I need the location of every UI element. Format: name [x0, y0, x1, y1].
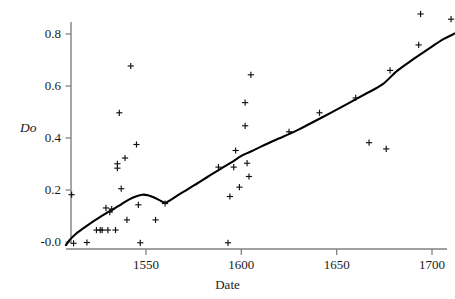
- data-point: [248, 72, 254, 78]
- data-point: [118, 186, 124, 192]
- data-point: [416, 42, 422, 48]
- x-axis-ticks: [146, 249, 432, 255]
- data-point: [128, 63, 134, 69]
- data-point: [69, 192, 75, 198]
- data-point: [383, 146, 389, 152]
- x-tick-label: 1550: [116, 258, 176, 271]
- data-point: [417, 11, 423, 17]
- x-tick-label: 1600: [211, 258, 271, 271]
- trend-line: [66, 33, 455, 245]
- data-point-markers: [69, 11, 455, 247]
- data-point: [233, 147, 239, 153]
- y-tick-label: -0.0: [40, 235, 61, 248]
- plot-area: [0, 0, 455, 299]
- data-point: [84, 239, 90, 245]
- data-point: [242, 100, 248, 106]
- data-point: [103, 205, 109, 211]
- data-point: [114, 165, 120, 171]
- data-point: [135, 202, 141, 208]
- y-axis-title: Do: [20, 121, 37, 135]
- x-tick-label: 1700: [402, 258, 455, 271]
- data-point: [105, 227, 111, 233]
- data-point: [122, 155, 128, 161]
- x-tick-label: 1650: [307, 258, 367, 271]
- data-point: [242, 123, 248, 129]
- y-axis-ticks: [66, 34, 72, 242]
- x-axis-title: Date: [0, 278, 455, 291]
- data-point: [316, 110, 322, 116]
- data-point: [227, 193, 233, 199]
- data-point: [231, 164, 237, 170]
- axis-lines: [66, 22, 447, 249]
- data-point: [133, 141, 139, 147]
- data-point: [244, 160, 250, 166]
- data-point: [116, 110, 122, 116]
- data-point: [246, 173, 252, 179]
- y-tick-label: 0.6: [45, 79, 61, 92]
- data-point: [387, 67, 393, 73]
- data-point: [137, 240, 143, 246]
- scatter-chart: Do Date -0.00.20.40.60.81550160016501700: [0, 0, 455, 299]
- y-tick-label: 0.4: [45, 131, 61, 144]
- data-point: [236, 184, 242, 190]
- data-point: [225, 240, 231, 246]
- data-point: [124, 217, 130, 223]
- data-point: [112, 227, 118, 233]
- data-point: [448, 16, 454, 22]
- data-point: [366, 140, 372, 146]
- data-point: [152, 217, 158, 223]
- y-tick-label: 0.2: [45, 183, 61, 196]
- y-tick-label: 0.8: [45, 27, 61, 40]
